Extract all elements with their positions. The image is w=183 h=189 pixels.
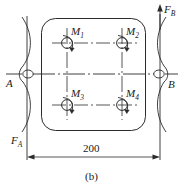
moment-arrowhead-m4: [124, 109, 129, 113]
break-symbol-a: [19, 17, 30, 132]
moment-arrowhead-m3: [69, 109, 74, 113]
engineering-diagram-svg: [0, 0, 183, 189]
figure-container: M1 M2 M3 M4 A B FB FA 200 (b): [0, 0, 183, 189]
moment-label-m2: M2: [126, 26, 139, 40]
break-symbol-b: [157, 17, 167, 132]
node-label-a: A: [6, 78, 13, 89]
figure-caption: (b): [0, 170, 183, 182]
moment-label-m3: M3: [71, 88, 84, 102]
moment-label-m4: M4: [126, 88, 139, 102]
node-label-b: B: [168, 79, 175, 90]
force-label-fb: FB: [164, 4, 175, 18]
force-label-fa: FA: [11, 135, 22, 149]
moment-arrowhead-m1: [69, 47, 74, 51]
force-arrow-fb: [157, 4, 163, 30]
dimension-label-200: 200: [83, 142, 100, 154]
dimension-line-200: [27, 155, 160, 160]
moment-arrowhead-m2: [124, 47, 129, 51]
pin-circle-b: [154, 70, 164, 78]
moment-label-m1: M1: [71, 26, 84, 40]
pin-circle-a: [23, 70, 33, 78]
